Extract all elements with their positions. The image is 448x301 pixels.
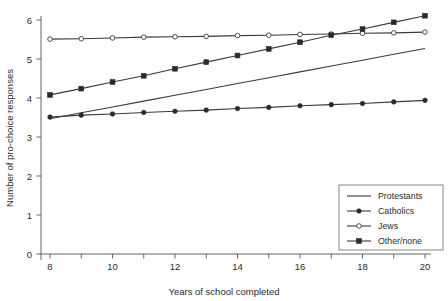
line-chart: 8101214161820 0123456 ProtestantsCatholi… (0, 0, 448, 301)
x-axis-tick-labels: 8101214161820 (47, 261, 430, 272)
catholics-marker (329, 102, 334, 107)
catholics-marker (266, 105, 271, 110)
catholics-marker (110, 112, 115, 117)
catholics-marker (235, 106, 240, 111)
jews-marker (298, 32, 303, 37)
y-tick-label: 6 (27, 15, 32, 26)
catholics-marker (423, 98, 428, 103)
y-tick-label: 0 (27, 249, 32, 260)
y-axis-title: Number of pro-choice responses (4, 69, 15, 207)
y-tick-label: 4 (27, 93, 32, 104)
y-tick-label: 5 (27, 54, 32, 65)
legend-label: Catholics (378, 206, 415, 216)
jews-marker (48, 37, 53, 42)
jews-marker (235, 33, 240, 38)
legend-marker (357, 224, 362, 229)
y-tick-label: 2 (27, 171, 32, 182)
other-none-marker (266, 46, 271, 51)
chart-series-group (48, 13, 428, 119)
jews-marker (423, 30, 428, 35)
other-none-marker (204, 60, 209, 65)
jews-marker (391, 31, 396, 36)
catholics-marker (79, 113, 84, 118)
other-none-marker (235, 53, 240, 58)
other-none-marker (110, 80, 115, 85)
x-tick-label: 12 (170, 261, 181, 272)
x-tick-label: 16 (295, 261, 306, 272)
chart-legend: ProtestantsCatholicsJewsOther/none (339, 185, 443, 250)
x-tick-label: 18 (357, 261, 368, 272)
catholics-marker (391, 100, 396, 105)
other-none-marker (48, 92, 53, 97)
catholics-marker (360, 101, 365, 106)
x-tick-label: 10 (107, 261, 118, 272)
x-tick-label: 14 (232, 261, 243, 272)
other-none-marker (423, 13, 428, 18)
other-none-marker (391, 20, 396, 25)
x-axis-title: Years of school completed (168, 286, 279, 297)
jews-marker (79, 36, 84, 41)
jews-marker (173, 34, 178, 39)
x-tick-label: 20 (420, 261, 431, 272)
legend-label: Jews (378, 221, 399, 231)
y-tick-label: 3 (27, 132, 32, 143)
jews-marker (141, 35, 146, 40)
catholics-marker (298, 104, 303, 109)
other-none-marker (173, 66, 178, 71)
jews-marker (204, 34, 209, 39)
y-tick-label: 1 (27, 210, 32, 221)
catholics-marker (173, 109, 178, 114)
other-none-marker (79, 86, 84, 91)
y-axis-tick-labels: 0123456 (27, 15, 32, 260)
jews-marker (266, 33, 271, 38)
legend-label: Other/none (378, 236, 422, 246)
other-none-marker (141, 73, 146, 78)
other-none-marker (360, 27, 365, 32)
x-tick-label: 8 (47, 261, 52, 272)
legend-label: Protestants (378, 191, 423, 201)
series-other-none (48, 13, 428, 97)
catholics-marker (204, 108, 209, 113)
catholics-marker (141, 110, 146, 115)
legend-marker (357, 209, 362, 214)
series-jews (48, 30, 428, 42)
jews-marker (110, 36, 115, 41)
other-none-marker (298, 40, 303, 45)
legend-marker (357, 239, 362, 244)
catholics-marker (48, 115, 53, 120)
chart-container: 8101214161820 0123456 ProtestantsCatholi… (0, 0, 448, 301)
other-none-marker (329, 33, 334, 38)
